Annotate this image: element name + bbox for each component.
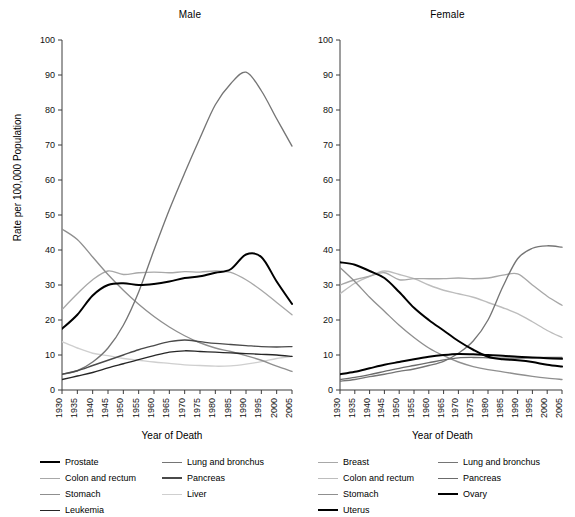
x-tick-label: 1955 [131,398,141,418]
plot-area-male: 1009080706050403020100193019351940194519… [0,0,300,450]
x-tick-label: 1950 [115,398,125,418]
series-line [62,229,292,371]
y-tick-label: 60 [45,175,55,185]
legend-item[interactable]: Colon and rectum [318,471,438,485]
legend-male-column-left: ProstateColon and rectumStomachLeukemia [40,455,162,517]
legend-label: Liver [187,489,207,500]
y-tick-label: 80 [45,105,55,115]
y-tick-label: 0 [50,385,55,395]
legend-item[interactable]: Pancreas [438,471,540,485]
x-tick-label: 1930 [332,398,342,418]
y-tick-label: 20 [45,315,55,325]
series-group [340,246,562,381]
x-tick-label: 1965 [436,398,446,418]
y-tick-label: 20 [323,315,333,325]
legend-item[interactable]: Pancreas [162,471,264,485]
y-tick-label: 90 [45,70,55,80]
x-tick-label: 1990 [238,398,248,418]
x-tick-label: 1975 [465,398,475,418]
y-tick-label: 100 [40,35,55,45]
legend-male-column-right: Lung and bronchusPancreasLiver [162,455,264,517]
legend-label: Stomach [343,489,379,500]
legend-item[interactable]: Colon and rectum [40,471,162,485]
x-tick-label: 1995 [524,398,534,418]
legend-label: Lung and bronchus [463,457,540,468]
legend-swatch-line-icon [162,462,182,463]
x-tick-label: 1970 [450,398,460,418]
x-tick-label: 1940 [362,398,372,418]
legend-item[interactable]: Liver [162,487,264,501]
x-tick-label: 1965 [161,398,171,418]
legend-item[interactable]: Stomach [318,487,438,501]
panel-male: Male Rate per 100,000 Population 1009080… [0,0,300,450]
x-tick-label: 1980 [480,398,490,418]
legend-female-column-left: BreastColon and rectumStomachUterus [318,455,438,517]
y-tick-label: 80 [323,105,333,115]
x-tick-label: 1935 [69,398,79,418]
y-tick-label: 50 [45,210,55,220]
legend-item[interactable]: Stomach [40,487,162,501]
x-tick-label: 1980 [207,398,217,418]
y-tick-label: 10 [323,350,333,360]
legend-item[interactable]: Uterus [318,503,438,517]
legend-label: Pancreas [187,473,225,484]
legend-item[interactable]: Lung and bronchus [162,455,264,469]
x-tick-label: 2005 [554,398,564,418]
x-tick-label: 1940 [85,398,95,418]
legend-swatch-line-icon [162,494,182,495]
y-tick-label: 40 [45,245,55,255]
legend-label: Pancreas [463,473,501,484]
x-tick-label: 1990 [510,398,520,418]
y-tick-label: 90 [323,70,333,80]
panel-female: Female 100908070605040302010019301935194… [290,0,575,450]
series-line [62,72,292,374]
legend-label: Stomach [65,489,101,500]
chart-svg-female: 1009080706050403020100193019351940194519… [290,0,575,450]
legend-swatch-line-icon [162,477,182,479]
legend-swatch-line-icon [40,478,60,479]
y-tick-label: 0 [328,385,333,395]
legend-item[interactable]: Lung and bronchus [438,455,540,469]
x-axis-label-female: Year of Death [300,430,575,441]
x-tick-label: 1960 [146,398,156,418]
series-line [62,340,292,374]
series-line [62,253,292,329]
plot-area-female: 1009080706050403020100193019351940194519… [290,0,575,450]
legend-label: Colon and rectum [343,473,414,484]
chart-svg-male: 1009080706050403020100193019351940194519… [0,0,300,450]
x-axis-label-male: Year of Death [22,430,322,441]
x-tick-label: 1930 [54,398,64,418]
legend-swatch-line-icon [438,493,458,495]
x-tick-label: 1960 [421,398,431,418]
y-tick-label: 40 [323,245,333,255]
legend-label: Lung and bronchus [187,457,264,468]
x-tick-label: 1945 [376,398,386,418]
legend-item[interactable]: Ovary [438,487,540,501]
legend-item[interactable]: Leukemia [40,503,162,517]
legend-female: BreastColon and rectumStomachUterus Lung… [318,455,568,517]
x-tick-label: 1995 [253,398,263,418]
legend-item[interactable]: Prostate [40,455,162,469]
legend-swatch-line-icon [318,462,338,463]
legend-swatch-line-icon [438,462,458,463]
x-tick-label: 1950 [391,398,401,418]
legend-swatch-line-icon [40,494,60,495]
legend-label: Prostate [65,457,99,468]
y-tick-label: 70 [323,140,333,150]
legend-label: Leukemia [65,505,104,516]
series-line [340,268,562,380]
x-tick-label: 1985 [223,398,233,418]
y-tick-label: 100 [318,35,333,45]
y-tick-label: 70 [45,140,55,150]
x-tick-label: 1945 [100,398,110,418]
legend-swatch-line-icon [318,478,338,479]
legend-item[interactable]: Breast [318,455,438,469]
series-line [340,354,562,374]
legend-label: Breast [343,457,369,468]
legend-label: Ovary [463,489,487,500]
y-tick-label: 30 [45,280,55,290]
x-tick-label: 1955 [406,398,416,418]
x-tick-label: 2000 [539,398,549,418]
legend-swatch-line-icon [318,494,338,495]
series-line [340,271,562,338]
